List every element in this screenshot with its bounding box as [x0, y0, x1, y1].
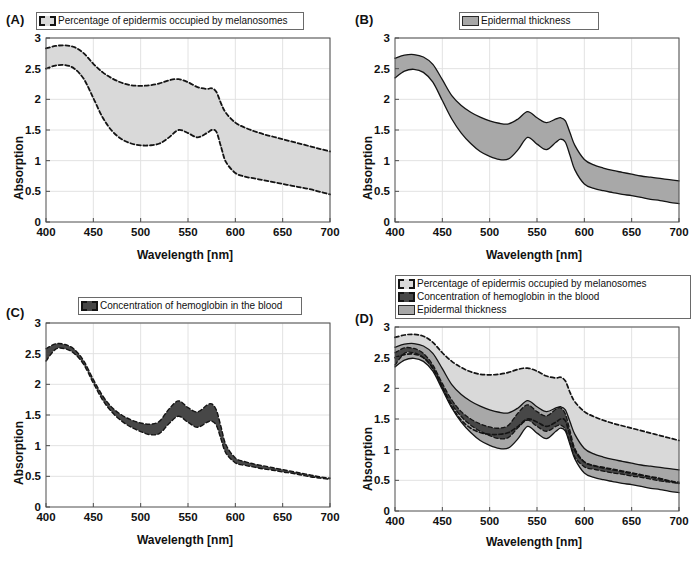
panel-label-A: (A): [6, 12, 25, 27]
legend-swatch-melanosomes-icon: [398, 279, 415, 289]
svg-text:3: 3: [35, 32, 41, 44]
x-axis-title-D: Wavelength [nm]: [389, 535, 679, 549]
legend-swatch-hemoglobin-icon: [398, 292, 415, 302]
x-axis-title-B: Wavelength [nm]: [389, 248, 679, 262]
svg-text:700: 700: [669, 226, 688, 238]
svg-text:1.5: 1.5: [25, 124, 42, 136]
svg-text:1.5: 1.5: [374, 124, 391, 136]
svg-text:1: 1: [35, 440, 42, 452]
svg-text:2: 2: [384, 382, 390, 394]
svg-text:600: 600: [226, 511, 245, 523]
legend-item-hemoglobin: Concentration of hemoglobin in the blood: [81, 299, 298, 312]
svg-text:700: 700: [669, 515, 688, 527]
y-axis-title-B: Absorption: [361, 136, 375, 200]
y-axis-title-A: Absorption: [12, 136, 26, 200]
svg-text:450: 450: [433, 226, 452, 238]
svg-text:550: 550: [178, 226, 197, 238]
svg-text:600: 600: [226, 226, 245, 238]
svg-text:3: 3: [35, 317, 41, 329]
svg-text:700: 700: [320, 226, 339, 238]
svg-text:0: 0: [384, 216, 390, 228]
svg-text:450: 450: [84, 511, 103, 523]
svg-text:1: 1: [384, 444, 391, 456]
legend-item-epidermal: Epidermal thickness: [462, 14, 595, 27]
plot-area-D: 40045050055060065070000.511.522.53: [349, 283, 697, 565]
svg-text:550: 550: [527, 515, 546, 527]
panel-C: (C) Concentration of hemoglobin in the b…: [0, 283, 348, 565]
svg-text:450: 450: [84, 226, 103, 238]
svg-text:550: 550: [527, 226, 546, 238]
legend-swatch-melanosomes-icon: [39, 16, 56, 26]
legend-label-hemoglobin: Concentration of hemoglobin in the blood: [417, 290, 599, 303]
legend-item-hemoglobin: Concentration of hemoglobin in the blood: [398, 290, 687, 303]
svg-text:1.5: 1.5: [374, 413, 391, 425]
svg-text:2: 2: [35, 93, 41, 105]
figure-absorption-spectra: (A) Percentage of epidermis occupied by …: [0, 0, 697, 565]
plot-area-C: 40045050055060065070000.511.522.53: [0, 283, 348, 565]
svg-text:3: 3: [384, 321, 390, 333]
legend-panel-D: Percentage of epidermis occupied by mela…: [395, 275, 691, 319]
panel-A: (A) Percentage of epidermis occupied by …: [0, 0, 348, 283]
svg-text:600: 600: [575, 226, 594, 238]
svg-text:2.5: 2.5: [25, 63, 42, 75]
svg-text:0.5: 0.5: [25, 185, 42, 197]
legend-label-epidermal: Epidermal thickness: [417, 303, 506, 316]
svg-text:2.5: 2.5: [374, 63, 391, 75]
panel-label-B: (B): [355, 12, 374, 27]
svg-text:2.5: 2.5: [374, 352, 391, 364]
svg-text:2: 2: [384, 93, 390, 105]
y-axis-title-D: Absorption: [361, 427, 375, 491]
legend-panel-B: Epidermal thickness: [459, 12, 599, 30]
panel-label-D: (D): [355, 311, 374, 326]
svg-text:2: 2: [35, 378, 41, 390]
y-axis-title-C: Absorption: [12, 421, 26, 485]
svg-text:500: 500: [131, 511, 150, 523]
svg-text:650: 650: [622, 515, 641, 527]
svg-text:550: 550: [178, 511, 197, 523]
svg-text:500: 500: [480, 226, 499, 238]
svg-text:0: 0: [35, 216, 41, 228]
x-axis-title-C: Wavelength [nm]: [40, 533, 330, 547]
legend-item-epidermal: Epidermal thickness: [398, 303, 687, 316]
svg-text:500: 500: [131, 226, 150, 238]
panel-B: (B) Epidermal thickness Absorption Wavel…: [349, 0, 697, 283]
legend-label-melanosomes: Percentage of epidermis occupied by mela…: [58, 14, 288, 27]
svg-text:700: 700: [320, 511, 339, 523]
svg-text:0: 0: [384, 505, 390, 517]
svg-text:1: 1: [35, 155, 42, 167]
legend-swatch-hemoglobin-icon: [81, 301, 98, 311]
plot-area-A: 40045050055060065070000.511.522.53: [0, 0, 348, 283]
svg-text:1.5: 1.5: [25, 409, 42, 421]
legend-label-hemoglobin: Concentration of hemoglobin in the blood: [100, 299, 282, 312]
panel-D: (D) Percentage of epidermis occupied by …: [349, 283, 697, 565]
svg-text:650: 650: [273, 511, 292, 523]
svg-text:2.5: 2.5: [25, 348, 42, 360]
svg-text:0.5: 0.5: [25, 470, 42, 482]
svg-text:650: 650: [622, 226, 641, 238]
legend-label-epidermal: Epidermal thickness: [481, 14, 570, 27]
panel-label-C: (C): [6, 305, 25, 320]
legend-item-melanosomes: Percentage of epidermis occupied by mela…: [398, 277, 687, 290]
svg-text:600: 600: [575, 515, 594, 527]
legend-swatch-epidermal-icon: [398, 305, 415, 315]
svg-text:1: 1: [384, 155, 391, 167]
legend-label-melanosomes: Percentage of epidermis occupied by mela…: [417, 277, 647, 290]
legend-panel-C: Concentration of hemoglobin in the blood: [78, 297, 302, 315]
svg-text:0: 0: [35, 501, 41, 513]
svg-text:3: 3: [384, 32, 390, 44]
svg-text:450: 450: [433, 515, 452, 527]
x-axis-title-A: Wavelength [nm]: [40, 248, 330, 262]
svg-text:500: 500: [480, 515, 499, 527]
svg-text:0.5: 0.5: [374, 474, 391, 486]
plot-area-B: 40045050055060065070000.511.522.53: [349, 0, 697, 283]
legend-panel-A: Percentage of epidermis occupied by mela…: [36, 12, 304, 30]
legend-item-melanosomes: Percentage of epidermis occupied by mela…: [39, 14, 300, 27]
legend-swatch-epidermal-icon: [462, 16, 479, 26]
svg-text:650: 650: [273, 226, 292, 238]
svg-text:0.5: 0.5: [374, 185, 391, 197]
